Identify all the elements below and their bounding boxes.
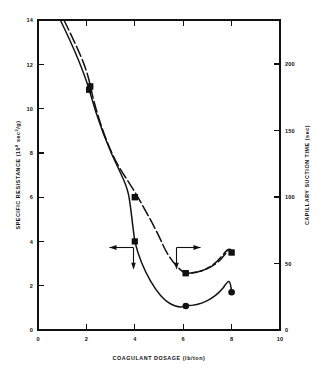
x-tick-label: 6	[182, 336, 185, 342]
series-resistance-markers	[86, 87, 235, 310]
y-axis-title-text: SPECIFIC RESISTANCE (10	[15, 147, 21, 230]
y-tick-label: 2	[30, 283, 33, 289]
y-tick-label: 6	[30, 194, 33, 200]
x-tick-label: 4	[133, 336, 137, 342]
x-tick-label: 8	[230, 336, 233, 342]
y2-tick-label: 0	[285, 327, 288, 333]
left-axis-arrow-annotation	[110, 245, 136, 270]
y2-axis-title: CAPILLARY SUCTION TIME (sec)	[304, 125, 310, 225]
y-axis-title: SPECIFIC RESISTANCE (108 sec2/g)	[14, 120, 21, 229]
y2-axis-title-text: CAPILLARY SUCTION TIME (sec)	[304, 125, 310, 225]
y2-tick-label: 100	[285, 194, 295, 200]
data-point-marker	[228, 249, 234, 255]
chart-canvas: 0 2 4 6 8 10 0 2 4 6 8 10 12 14 50 100 1…	[0, 0, 324, 388]
series-specific-resistance	[60, 20, 231, 307]
x-axis-title-text: COAGULANT DOSAGE (lb/ton)	[113, 355, 206, 361]
data-point-marker	[183, 303, 190, 310]
chart-figure: 0 2 4 6 8 10 0 2 4 6 8 10 12 14 50 100 1…	[0, 0, 324, 388]
svg-text:SPECIFIC RESISTANCE (108 sec2/: SPECIFIC RESISTANCE (108 sec2/g)	[14, 120, 21, 229]
y-tick-label: 14	[27, 17, 34, 23]
series-capillary-markers	[87, 83, 235, 276]
y2-tick-labels: 50 100 150 200 0	[285, 61, 295, 333]
x-axis-ticks	[38, 20, 280, 330]
data-point-marker	[132, 238, 138, 244]
data-point-marker	[228, 289, 235, 296]
y-tick-label: 12	[27, 62, 33, 68]
x-tick-label: 0	[36, 336, 39, 342]
x-tick-label: 10	[277, 336, 283, 342]
y2-tick-label: 200	[285, 61, 295, 67]
data-point-marker	[183, 270, 189, 276]
y-tick-label: 4	[30, 239, 34, 245]
plot-frame	[38, 20, 280, 330]
data-point-marker	[86, 87, 92, 93]
y-tick-label: 0	[30, 327, 33, 333]
x-axis-title: COAGULANT DOSAGE (lb/ton)	[113, 355, 206, 361]
data-point-marker	[132, 194, 138, 200]
x-tick-label: 2	[85, 336, 88, 342]
series-capillary-suction-time	[64, 20, 232, 273]
right-axis-arrow-annotation	[174, 245, 200, 270]
y-axis-title-tail2: /g)	[15, 120, 21, 128]
y-axis-title-tail: sec	[15, 131, 21, 144]
y-tick-labels: 0 2 4 6 8 10 12 14	[27, 17, 34, 333]
y2-tick-label: 150	[285, 128, 295, 134]
y2-tick-label: 50	[285, 261, 291, 267]
y2-axis-ticks	[274, 64, 280, 330]
x-tick-labels: 0 2 4 6 8 10	[36, 336, 283, 342]
y-axis-ticks	[38, 20, 44, 330]
y-tick-label: 10	[27, 106, 33, 112]
y-tick-label: 8	[30, 150, 33, 156]
